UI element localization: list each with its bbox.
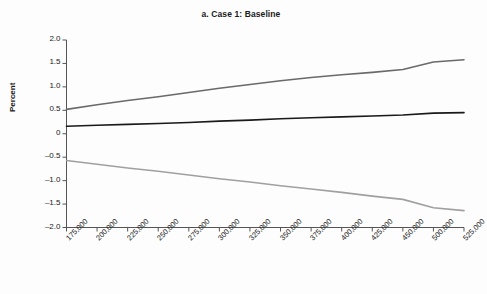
y-tick-label: –1.5	[27, 198, 61, 207]
y-tick-label: –1.0	[27, 175, 61, 184]
y-tick-marks	[63, 40, 67, 228]
y-tick-label: 1.0	[27, 81, 61, 90]
series-line-lower-bound	[67, 160, 465, 210]
y-tick-label: 2.0	[27, 34, 61, 43]
y-tick-label: –2.0	[27, 222, 61, 231]
y-tick-label: 1.5	[27, 57, 61, 66]
y-tick-label: –0.5	[27, 151, 61, 160]
y-tick-label: 0	[27, 128, 61, 137]
series-line-upper-bound	[67, 60, 465, 110]
data-series-group	[67, 60, 465, 211]
series-line-central-estimate	[67, 113, 465, 127]
y-tick-label: 0.5	[27, 104, 61, 113]
